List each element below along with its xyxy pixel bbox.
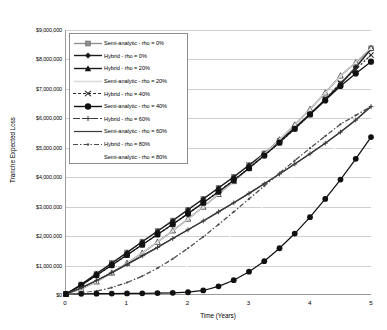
y-axis-tick: $1,000,000 xyxy=(36,263,62,269)
data-point xyxy=(277,245,283,251)
legend-key-square-icon xyxy=(72,38,104,49)
y-axis-tick-labels: $0$1,000,000$2,000,000$3,000,000$4,000,0… xyxy=(0,0,62,330)
data-point xyxy=(111,286,113,288)
data-point xyxy=(368,59,374,65)
legend-key-diamond-icon xyxy=(72,50,104,61)
data-point xyxy=(231,277,237,283)
legend-key-xdash-icon xyxy=(72,88,104,99)
data-point xyxy=(216,283,222,289)
data-point xyxy=(261,258,267,264)
data-point xyxy=(185,211,191,217)
chart-page: Tranche Expected Loss $0$1,000,000$2,000… xyxy=(0,0,387,330)
data-point xyxy=(109,262,115,268)
data-point xyxy=(322,97,328,103)
data-point xyxy=(276,140,282,146)
data-point xyxy=(202,236,204,238)
data-point xyxy=(248,198,250,200)
legend-key-circle-icon xyxy=(72,101,104,112)
legend-label: Semi-analytic - rho = 80% xyxy=(104,154,167,160)
data-point xyxy=(215,189,221,195)
legend-key-line-icon xyxy=(72,126,104,137)
y-axis-tick: $0 xyxy=(56,292,62,298)
data-point xyxy=(353,70,359,76)
legend-item[interactable]: Hybrid - rho = 40% xyxy=(72,87,185,100)
legend-item[interactable]: Semi-analytic - rho = 40% xyxy=(72,100,185,113)
data-point xyxy=(339,123,341,125)
data-point xyxy=(322,196,328,202)
data-point xyxy=(294,159,296,161)
y-axis-tick: $8,000,000 xyxy=(36,56,62,62)
legend-label: Hybrid - rho = 40% xyxy=(104,91,150,97)
legend-label: Semi-analytic - rho = 20% xyxy=(104,78,167,84)
legend-item[interactable]: Hybrid - rho = 0% xyxy=(72,50,185,63)
legend-key-lightline-icon xyxy=(72,76,104,87)
x-axis-title: Time (Years) xyxy=(65,312,371,319)
y-axis-tick: $9,000,000 xyxy=(36,27,62,33)
legend-marker-circle xyxy=(85,103,91,109)
chart-legend: Semi-analytic - rho = 0%Hybrid - rho = 0… xyxy=(69,33,188,164)
legend-key-dashdot-icon xyxy=(72,139,104,150)
legend-label: Hybrid - rho = 0% xyxy=(104,53,147,59)
data-point xyxy=(170,221,176,227)
data-point xyxy=(307,111,313,117)
data-point xyxy=(200,288,206,294)
data-point xyxy=(233,211,235,213)
legend-key-triangle-icon xyxy=(72,63,104,74)
legend-label: Hybrid - rho = 60% xyxy=(104,116,150,122)
legend-item[interactable]: Hybrid - rho = 20% xyxy=(72,62,185,75)
data-point xyxy=(154,231,160,237)
legend-item[interactable]: Hybrid - rho = 80% xyxy=(72,138,185,151)
legend-key-blank-icon xyxy=(72,151,104,162)
data-point xyxy=(126,281,128,283)
data-point xyxy=(155,290,161,296)
legend-item[interactable]: Semi-analytic - rho = 80% xyxy=(72,150,185,163)
x-axis-tick: 4 xyxy=(308,299,311,306)
data-point xyxy=(309,147,311,149)
legend-item[interactable]: Semi-analytic - rho = 60% xyxy=(72,125,185,138)
data-point xyxy=(200,200,206,206)
data-point xyxy=(139,242,145,248)
x-axis-tick: 2 xyxy=(186,299,189,306)
legend-label: Hybrid - rho = 20% xyxy=(104,65,150,71)
data-point xyxy=(124,252,130,258)
legend-key-plusdash-icon xyxy=(72,113,104,124)
data-point xyxy=(261,152,267,158)
y-axis-tick: $3,000,000 xyxy=(36,204,62,210)
x-axis-tick: 5 xyxy=(369,299,372,306)
y-axis-tick: $2,000,000 xyxy=(36,233,62,239)
data-point xyxy=(355,114,357,116)
data-point xyxy=(246,269,252,275)
data-point xyxy=(170,290,176,296)
y-axis-tick: $5,000,000 xyxy=(36,145,62,151)
data-point xyxy=(63,291,69,297)
data-point xyxy=(172,258,174,260)
data-point xyxy=(292,126,298,132)
legend-marker-square xyxy=(86,41,91,46)
legend-label: Semi-analytic - rho = 40% xyxy=(104,103,167,109)
data-point xyxy=(185,289,191,295)
data-point xyxy=(307,214,313,220)
data-point xyxy=(337,83,343,89)
x-axis-tick: 3 xyxy=(247,299,250,306)
data-point xyxy=(231,177,237,183)
data-point xyxy=(278,172,280,174)
legend-item[interactable]: Semi-analytic - rho = 20% xyxy=(72,75,185,88)
legend-label: Hybrid - rho = 80% xyxy=(104,141,150,147)
x-axis-tick: 0 xyxy=(63,299,66,306)
data-point xyxy=(156,267,158,269)
data-point xyxy=(141,275,143,277)
data-point xyxy=(263,185,265,187)
data-point xyxy=(109,291,115,297)
legend-marker-dot xyxy=(87,143,89,145)
data-point xyxy=(187,247,189,249)
data-point xyxy=(368,52,373,57)
data-point xyxy=(338,177,344,183)
y-axis-tick: $4,000,000 xyxy=(36,174,62,180)
legend-item[interactable]: Hybrid - rho = 60% xyxy=(72,113,185,126)
data-point xyxy=(324,135,326,137)
data-point xyxy=(292,231,298,237)
data-point xyxy=(368,134,374,140)
legend-item[interactable]: Semi-analytic - rho = 0% xyxy=(72,37,185,50)
data-point xyxy=(370,105,372,107)
x-axis-tick-labels: 012345 xyxy=(65,299,371,311)
